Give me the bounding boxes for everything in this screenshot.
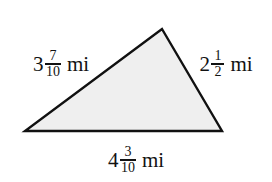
side-label-bottom: 4 3 10 mi — [88, 140, 184, 180]
triangle-figure: 3 7 10 mi 2 1 2 mi 4 3 10 mi — [0, 0, 272, 182]
right-unit: mi — [230, 54, 252, 75]
left-denominator: 10 — [45, 65, 61, 79]
bottom-whole-number: 4 — [108, 150, 119, 171]
side-label-right: 2 1 2 mi — [186, 44, 266, 84]
right-whole-number: 2 — [199, 54, 210, 75]
right-denominator: 2 — [213, 65, 222, 79]
left-numerator: 7 — [48, 49, 57, 63]
bottom-fraction: 3 10 — [120, 145, 136, 176]
left-fraction: 7 10 — [45, 49, 61, 80]
bottom-denominator: 10 — [120, 161, 136, 175]
left-unit: mi — [67, 54, 89, 75]
right-fraction: 1 2 — [211, 49, 224, 80]
bottom-unit: mi — [142, 150, 164, 171]
right-numerator: 1 — [213, 49, 222, 63]
left-whole-number: 3 — [33, 54, 44, 75]
bottom-numerator: 3 — [123, 145, 132, 159]
side-label-left: 3 7 10 mi — [20, 44, 102, 84]
